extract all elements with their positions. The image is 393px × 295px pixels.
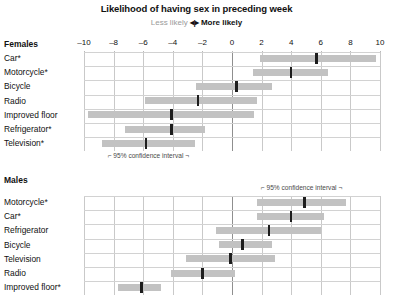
row-label: Radio: [4, 96, 26, 106]
median-marker: [201, 268, 204, 279]
panel-heading-females: Females: [4, 39, 38, 49]
males-ci-annotation: ⌐ 95% confidence interval ¬: [261, 184, 342, 191]
row-gridline: [84, 123, 380, 124]
confidence-interval-bar: [219, 241, 272, 248]
females-ci-annotation: ⌐ 95% confidence interval ¬: [108, 152, 189, 159]
median-marker: [303, 197, 306, 208]
row-gridline: [84, 52, 380, 53]
median-marker: [170, 109, 173, 120]
row-label: Refrigerator: [4, 225, 48, 235]
median-marker: [290, 211, 293, 222]
x-axis-tick-label: 6: [319, 38, 323, 47]
row-label: Motorcycle*: [4, 67, 48, 77]
row-gridline: [84, 109, 380, 110]
confidence-interval-bar: [257, 199, 346, 206]
row-label: Radio: [4, 268, 26, 278]
median-marker: [170, 124, 173, 135]
subtitle-arrow-icon: ◂|▸: [190, 18, 199, 27]
x-axis-tick-label: 8: [348, 38, 352, 47]
row-gridline: [84, 95, 380, 96]
x-axis-tick-label: –4: [168, 38, 177, 47]
median-marker: [197, 95, 200, 106]
chart-title: Likelihood of having sex in preceding we…: [0, 3, 393, 14]
row-label: Bicycle: [4, 81, 31, 91]
confidence-interval-bar: [260, 55, 375, 62]
row-gridline: [84, 210, 380, 211]
x-axis-tick-label: –2: [198, 38, 207, 47]
row-label: Car*: [4, 211, 21, 221]
row-gridline: [84, 267, 380, 268]
row-gridline: [84, 66, 380, 67]
median-marker: [241, 239, 244, 250]
row-gridline: [84, 80, 380, 81]
x-axis-tick-label: –6: [139, 38, 148, 47]
gridline: [380, 52, 381, 151]
median-marker: [235, 81, 238, 92]
gridline: [380, 196, 381, 295]
confidence-interval-bar: [145, 97, 257, 104]
x-axis-tick-label: –10: [77, 38, 90, 47]
x-axis-tick-label: 4: [289, 38, 293, 47]
x-axis-tick-label: 2: [259, 38, 263, 47]
row-gridline: [84, 281, 380, 282]
median-marker: [140, 282, 143, 293]
median-marker: [290, 67, 293, 78]
row-label: Improved floor*: [4, 282, 61, 292]
median-marker: [145, 138, 148, 149]
confidence-interval-bar: [102, 140, 195, 147]
row-gridline: [84, 239, 380, 240]
row-gridline: [84, 224, 380, 225]
subtitle-more-likely: More likely: [201, 18, 242, 27]
median-marker: [268, 225, 271, 236]
panel-heading-males: Males: [4, 175, 28, 185]
row-label: Television*: [4, 138, 44, 148]
row-gridline: [84, 137, 380, 138]
median-marker: [229, 253, 232, 264]
row-gridline: [84, 253, 380, 254]
row-label: Bicycle: [4, 240, 31, 250]
median-marker: [315, 53, 318, 64]
confidence-interval-bar: [125, 126, 205, 133]
row-label: Television: [4, 254, 41, 264]
subtitle-less-likely: Less likely: [151, 18, 188, 27]
row-label: Refrigerator*: [4, 124, 51, 134]
row-gridline: [84, 196, 380, 197]
row-label: Improved floor: [4, 110, 58, 120]
x-axis-tick-label: 0: [230, 38, 234, 47]
chart-subtitle: Less likely ◂|▸ More likely: [0, 18, 393, 27]
row-label: Car*: [4, 53, 21, 63]
x-axis-tick-label: –8: [109, 38, 118, 47]
row-label: Motorcycle*: [4, 197, 48, 207]
x-axis-tick-label: 10: [376, 38, 385, 47]
